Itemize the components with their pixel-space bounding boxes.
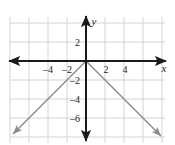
y-tick-label-pos2: 2 — [75, 37, 80, 48]
x-axis-label: x — [161, 62, 167, 74]
x-tick-label-neg4: –4 — [42, 64, 53, 75]
graph-figure: –4 –2 2 4 2 –2 –4 –6 x y — [0, 0, 175, 145]
x-tick-label-pos2: 2 — [104, 64, 109, 75]
x-tick-label-neg2: –2 — [61, 64, 72, 75]
y-tick-label-neg4: –4 — [69, 94, 80, 105]
y-tick-label-neg2: –2 — [69, 75, 80, 86]
y-tick-label-neg6: –6 — [69, 113, 80, 124]
y-axis-label: y — [91, 15, 97, 27]
coordinate-plot: –4 –2 2 4 2 –2 –4 –6 x y — [0, 0, 175, 145]
x-tick-label-pos4: 4 — [123, 64, 128, 75]
